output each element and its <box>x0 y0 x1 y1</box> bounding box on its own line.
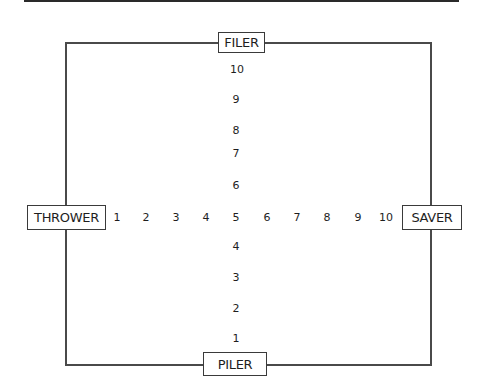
saver-label-text: SAVER <box>411 210 452 225</box>
diagram-frame <box>65 42 432 366</box>
v-scale-number: 6 <box>233 179 240 192</box>
v-scale-number: 9 <box>233 93 240 106</box>
h-scale-number: 1 <box>114 211 121 224</box>
h-scale-number: 4 <box>203 211 210 224</box>
h-scale-number: 10 <box>379 211 393 224</box>
v-scale-number: 7 <box>233 147 240 160</box>
piler-label-text: PILER <box>218 357 253 372</box>
v-scale-number: 1 <box>233 332 240 345</box>
v-scale-number: 4 <box>233 240 240 253</box>
h-scale-number: 3 <box>173 211 180 224</box>
thrower-label-text: THROWER <box>34 210 99 225</box>
piler-label: PILER <box>203 352 267 376</box>
filer-label-text: FILER <box>224 35 258 50</box>
filer-label: FILER <box>218 32 265 53</box>
h-scale-number: 2 <box>143 211 150 224</box>
thrower-label: THROWER <box>27 205 106 230</box>
top-rule <box>24 0 459 2</box>
h-scale-number: 7 <box>294 211 301 224</box>
v-scale-number: 10 <box>230 63 244 76</box>
h-scale-number: 5 <box>233 211 240 224</box>
h-scale-number: 9 <box>355 211 362 224</box>
saver-label: SAVER <box>402 205 462 230</box>
h-scale-number: 6 <box>264 211 271 224</box>
v-scale-number: 2 <box>233 302 240 315</box>
v-scale-number: 8 <box>233 124 240 137</box>
v-scale-number: 3 <box>233 271 240 284</box>
h-scale-number: 8 <box>324 211 331 224</box>
